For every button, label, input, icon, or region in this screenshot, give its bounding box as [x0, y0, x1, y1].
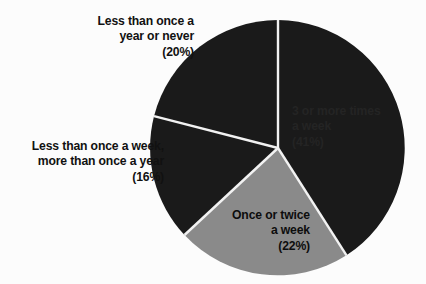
pie-label-once-or-twice-a-week: Once or twice a week (22%)	[206, 208, 310, 254]
pie-label-three-or-more-times-a-week: 3 or more times a week (41%)	[292, 104, 392, 150]
pie-chart-figure: Less than once a year or never (20%) Les…	[0, 0, 426, 284]
pie-label-less-than-once-a-year-or-never: Less than once a year or never (20%)	[56, 14, 194, 60]
pie-label-less-than-once-a-week: Less than once a week, more than once a …	[2, 139, 164, 185]
